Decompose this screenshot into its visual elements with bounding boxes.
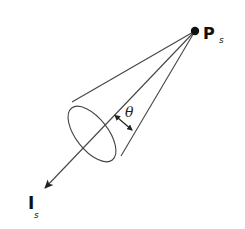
apex-label-sub: s: [219, 35, 224, 45]
apex-point-icon: [191, 27, 199, 35]
spotlight-cone-diagram: P s I s θ: [0, 0, 245, 229]
cone-base-ellipse: [59, 98, 125, 170]
apex-label-main: P: [203, 24, 215, 43]
cone-lower-edge: [121, 31, 195, 156]
cone-upper-edge: [72, 31, 195, 102]
axis-arrow: [45, 31, 195, 188]
angle-label: θ: [125, 104, 134, 120]
axis-label-sub: s: [34, 210, 39, 220]
